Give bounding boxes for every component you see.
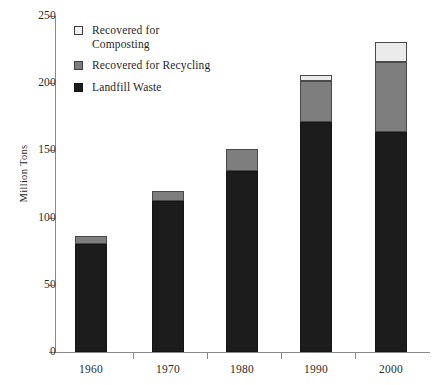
legend-item-label: Recovered for Recycling bbox=[92, 59, 212, 73]
legend-swatch-icon bbox=[74, 61, 83, 70]
x-tick-mark bbox=[281, 352, 282, 359]
x-tick-label: 1980 bbox=[212, 363, 272, 375]
x-tick-label: 1990 bbox=[286, 363, 346, 375]
x-tick-label: 1970 bbox=[138, 363, 198, 375]
legend-item-label: Landfill Waste bbox=[92, 81, 212, 95]
y-tick-label: 0 bbox=[12, 346, 56, 357]
x-tick-mark bbox=[133, 352, 134, 359]
bar-segment bbox=[300, 81, 332, 123]
stacked-bar-chart: 050100150200250 Million Tons 19601970198… bbox=[0, 0, 440, 385]
bar-segment bbox=[375, 62, 407, 132]
x-tick-mark bbox=[355, 352, 356, 359]
chart-legend: Recovered for CompostingRecovered for Re… bbox=[74, 24, 224, 103]
x-tick-label: 1960 bbox=[61, 363, 121, 375]
bar-segment bbox=[300, 75, 332, 80]
y-axis-title: Million Tons bbox=[18, 114, 29, 234]
legend-item-landfill: Landfill Waste bbox=[74, 81, 224, 95]
bar-segment bbox=[75, 244, 107, 352]
legend-item-label: Recovered for Composting bbox=[92, 24, 212, 51]
bar-segment bbox=[152, 191, 184, 202]
legend-swatch-icon bbox=[74, 26, 83, 35]
x-tick-mark bbox=[207, 352, 208, 359]
bar-segment bbox=[375, 42, 407, 62]
bar-segment bbox=[75, 236, 107, 244]
bar-segment bbox=[375, 132, 407, 352]
y-tick-label: 50 bbox=[12, 279, 56, 290]
bar-group bbox=[375, 16, 407, 352]
bar-segment bbox=[226, 149, 258, 171]
x-tick-label: 2000 bbox=[361, 363, 421, 375]
legend-swatch-icon bbox=[74, 83, 83, 92]
bar-group bbox=[300, 16, 332, 352]
legend-item-composting: Recovered for Composting bbox=[74, 24, 224, 51]
y-axis-line bbox=[55, 16, 56, 353]
y-tick-label: 200 bbox=[12, 77, 56, 88]
y-tick-label: 250 bbox=[12, 10, 56, 21]
bar-segment bbox=[152, 201, 184, 352]
bar-group bbox=[226, 16, 258, 352]
x-axis-line bbox=[55, 352, 430, 353]
legend-item-recycling: Recovered for Recycling bbox=[74, 59, 224, 73]
bar-segment bbox=[226, 171, 258, 352]
bar-segment bbox=[300, 122, 332, 352]
